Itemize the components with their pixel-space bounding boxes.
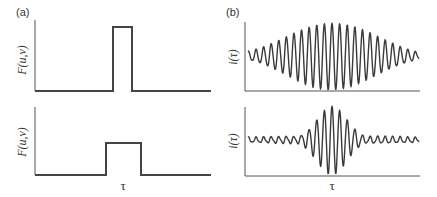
y-axis-label: F(u,v) — [15, 127, 29, 158]
rect-spectrum-narrow — [35, 27, 211, 91]
y-axis-label: F(u,v) — [15, 45, 29, 76]
x-axis-label: τ — [120, 178, 125, 193]
panel-b-label: (b) — [226, 6, 239, 18]
panel-a-bottom-plot: F(u,v) τ — [15, 107, 211, 193]
panel-b-top-plot: i(τ) — [226, 22, 420, 91]
panel-a-label: (a) — [16, 6, 29, 18]
y-axis-label: i(τ) — [226, 133, 240, 149]
interferogram-narrow — [248, 106, 419, 174]
interferogram-broad — [248, 23, 419, 90]
figure-canvas: (a) F(u,v) F(u,v) τ (b) i(τ) i(τ) τ — [0, 0, 437, 197]
panel-b-bottom-plot: i(τ) τ — [226, 106, 420, 193]
rect-spectrum-wide — [35, 143, 211, 175]
y-axis-label: i(τ) — [226, 49, 240, 65]
x-axis-label: τ — [329, 178, 334, 193]
panel-a-top-plot: F(u,v) — [15, 20, 211, 91]
